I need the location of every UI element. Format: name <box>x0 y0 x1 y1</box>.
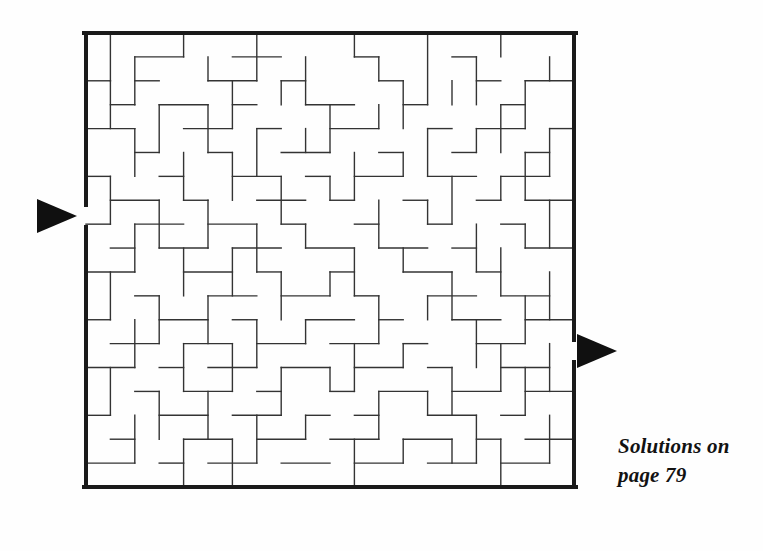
caption-line-2: page 79 <box>618 461 758 490</box>
caption-solutions-reference: Solutions on page 79 <box>618 432 758 490</box>
maze-page: Solutions on page 79 <box>0 0 763 551</box>
caption-line-1: Solutions on <box>618 432 758 461</box>
